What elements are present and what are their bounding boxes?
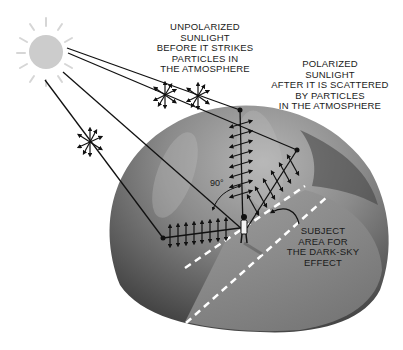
sun-icon bbox=[17, 18, 72, 86]
label-line: POLARIZED bbox=[265, 59, 395, 70]
label-line: UNPOLARIZED bbox=[130, 22, 280, 33]
sky-dome bbox=[110, 106, 389, 333]
label-line: BEFORE IT STRIKES bbox=[130, 43, 280, 54]
label-line: THE DARK-SKY bbox=[283, 247, 363, 258]
label-line: AFTER IT IS SCATTERED bbox=[265, 80, 395, 91]
polarized-sunlight-label: POLARIZED SUNLIGHT AFTER IT IS SCATTERED… bbox=[265, 59, 395, 112]
label-line: IN THE ATMOSPHERE bbox=[265, 101, 395, 112]
angle-label: 90° bbox=[210, 178, 224, 188]
label-line: SUBJECT bbox=[283, 226, 363, 237]
label-line: EFFECT bbox=[283, 258, 363, 269]
diagram-canvas: UNPOLARIZED SUNLIGHT BEFORE IT STRIKES P… bbox=[0, 0, 403, 350]
label-line: THE ATMOSPHERE bbox=[130, 64, 280, 75]
subject-area-label: SUBJECT AREA FOR THE DARK-SKY EFFECT bbox=[283, 226, 363, 268]
unpolarized-sunlight-label: UNPOLARIZED SUNLIGHT BEFORE IT STRIKES P… bbox=[130, 22, 280, 75]
